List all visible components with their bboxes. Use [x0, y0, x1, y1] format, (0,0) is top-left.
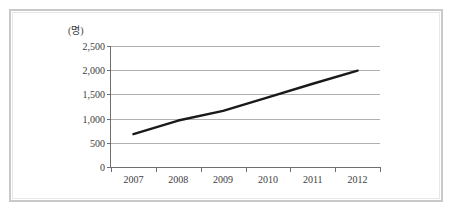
- x-tick-mark: [246, 167, 247, 172]
- x-tick-mark: [111, 167, 112, 172]
- series-line: [133, 71, 357, 134]
- line-chart: (명) 2,5002,0001,5001,0005000 20072008200…: [0, 0, 455, 214]
- x-tick-label: 2009: [213, 174, 233, 185]
- y-tick-label: 0: [100, 162, 105, 173]
- x-tick-label: 2011: [303, 174, 323, 185]
- x-tick-mark: [201, 167, 202, 172]
- x-tick-label: 2007: [123, 174, 143, 185]
- x-tick-mark: [290, 167, 291, 172]
- y-tick-label: 500: [90, 137, 105, 148]
- series-line-group: [111, 46, 380, 167]
- y-tick-label: 2,000: [83, 65, 106, 76]
- plot-area: 2,5002,0001,5001,0005000 200720082009201…: [111, 46, 380, 167]
- x-tick-mark: [335, 167, 336, 172]
- x-tick-mark: [380, 167, 381, 172]
- x-tick-mark: [156, 167, 157, 172]
- y-tick-label: 1,500: [83, 89, 106, 100]
- x-tick-label: 2012: [348, 174, 368, 185]
- y-tick-label: 1,000: [83, 113, 106, 124]
- y-axis-unit-label: (명): [68, 22, 84, 37]
- x-tick-label: 2010: [258, 174, 278, 185]
- y-tick-label: 2,500: [83, 41, 106, 52]
- x-tick-label: 2008: [168, 174, 188, 185]
